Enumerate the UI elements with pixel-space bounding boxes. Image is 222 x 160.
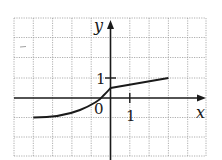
x-tick-label: 1 <box>126 107 136 125</box>
y-axis-label: y <box>93 16 104 35</box>
x-axis-label: x <box>196 103 205 122</box>
y-axis-arrow-icon <box>107 20 114 29</box>
graph: y x 0 1 1 <box>0 0 222 160</box>
y-tick-label: 1 <box>96 70 106 88</box>
stray-mark <box>20 47 26 48</box>
origin-label: 0 <box>94 100 104 118</box>
x-axis-arrow-icon <box>197 95 206 102</box>
line-right <box>111 78 169 88</box>
